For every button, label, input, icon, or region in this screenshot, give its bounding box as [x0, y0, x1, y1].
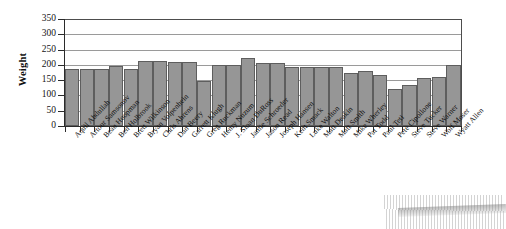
- bar: [446, 65, 460, 126]
- x-axis-tick: [285, 127, 286, 132]
- x-axis-tick: [80, 127, 81, 132]
- bar: [373, 75, 387, 126]
- y-axis-tick-labels: 050100150200250300350: [26, 0, 56, 229]
- x-axis-tick: [197, 127, 198, 132]
- y-axis-tick-label: 350: [30, 14, 56, 24]
- x-axis-tick: [94, 127, 95, 132]
- bar: [300, 67, 314, 126]
- bar: [94, 69, 108, 126]
- x-axis-tick: [182, 127, 183, 132]
- bar: [432, 77, 446, 126]
- x-axis-tick: [314, 127, 315, 132]
- bar: [212, 65, 226, 126]
- bar: [388, 89, 402, 126]
- y-axis-tick-300: [58, 34, 64, 35]
- x-axis-tick: [226, 127, 227, 132]
- bar: [285, 67, 299, 126]
- bar: [182, 62, 196, 126]
- y-axis-tick-label: 250: [30, 45, 56, 55]
- y-axis-tick-150: [58, 80, 64, 81]
- bar: [168, 62, 182, 127]
- bar: [138, 61, 152, 126]
- y-axis-tick-50: [58, 111, 64, 112]
- x-axis-tick: [402, 127, 403, 132]
- plot-right-border: [461, 19, 462, 127]
- x-axis-tick: [373, 127, 374, 132]
- bar: [344, 73, 358, 127]
- bar: [256, 63, 270, 126]
- x-axis-tick: [300, 127, 301, 132]
- x-axis-tick: [256, 127, 257, 132]
- x-axis-tick: [109, 127, 110, 132]
- bar: [109, 66, 123, 126]
- bar: [417, 78, 431, 126]
- x-axis-tick: [138, 127, 139, 132]
- x-axis-tick: [329, 127, 330, 132]
- x-axis-tick: [417, 127, 418, 132]
- bar: [270, 63, 284, 126]
- y-axis-tick-label: 150: [30, 75, 56, 85]
- bar: [80, 69, 94, 126]
- y-axis-tick-350: [58, 19, 64, 20]
- bar: [402, 85, 416, 126]
- x-axis-tick: [153, 127, 154, 132]
- bar: [226, 65, 240, 126]
- y-axis-tick-label: 50: [30, 106, 56, 116]
- x-axis-tick: [432, 127, 433, 132]
- bar: [358, 71, 372, 126]
- x-axis-tick: [124, 127, 125, 132]
- bar: [124, 69, 138, 126]
- bar-series: [65, 19, 461, 126]
- x-axis-tick: [344, 127, 345, 132]
- bar: [241, 58, 255, 126]
- y-axis-tick-label: 0: [30, 121, 56, 131]
- x-axis-tick: [461, 127, 462, 132]
- y-axis-tick-label: 100: [30, 90, 56, 100]
- y-axis-tick-label: 300: [30, 29, 56, 39]
- y-axis-tick-250: [58, 50, 64, 51]
- bar: [314, 67, 328, 126]
- y-axis-tick-label: 200: [30, 60, 56, 70]
- x-axis-tick: [241, 127, 242, 132]
- y-axis-tick-0: [58, 126, 64, 127]
- x-axis-tick: [168, 127, 169, 132]
- y-axis-tick-100: [58, 95, 64, 96]
- x-axis-tick: [270, 127, 271, 132]
- x-axis-tick: [358, 127, 359, 132]
- x-axis-tick: [65, 127, 66, 132]
- bar: [65, 69, 79, 126]
- bar: [329, 67, 343, 126]
- x-axis-tick: [388, 127, 389, 132]
- bar: [197, 81, 211, 126]
- x-axis-tick: [446, 127, 447, 132]
- bar: [153, 61, 167, 126]
- y-axis-tick-200: [58, 65, 64, 66]
- x-axis-tick: [212, 127, 213, 132]
